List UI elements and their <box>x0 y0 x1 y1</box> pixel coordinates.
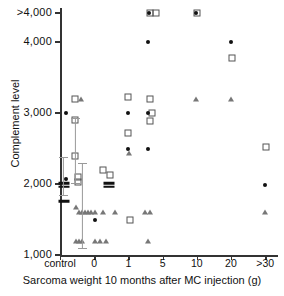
error-bar-cap-top <box>59 157 68 158</box>
scatter-chart-figure: >4,0004,0003,0002,0001,000 control015102… <box>0 0 284 296</box>
error-bar-cap-bottom <box>59 195 68 196</box>
data-point-square <box>262 144 269 151</box>
data-point-square <box>153 10 160 17</box>
data-point-triangle <box>145 238 151 243</box>
data-point-bar <box>103 182 114 185</box>
error-bar-stem <box>63 157 64 196</box>
data-point-circle <box>64 111 68 115</box>
data-point-circle <box>146 147 150 151</box>
x-tick-label: 20 <box>225 258 237 269</box>
data-point-triangle <box>112 210 118 215</box>
x-tick-label: 10 <box>191 258 203 269</box>
y-axis-title: Complement level <box>10 69 21 179</box>
y-tick-label: 3,000 <box>23 107 52 118</box>
y-tick-mark <box>55 112 61 113</box>
x-tick-label: 1 <box>125 258 131 269</box>
y-axis-line <box>60 8 62 256</box>
x-tick-label: 0 <box>91 258 97 269</box>
x-tick-label: >30 <box>256 258 274 269</box>
x-tick-label: control <box>44 258 76 269</box>
data-point-circle <box>229 40 233 44</box>
data-point-triangle <box>193 96 199 101</box>
data-point-square <box>146 117 153 124</box>
error-bar-cap-top <box>71 118 80 119</box>
y-tick-mark <box>55 12 61 13</box>
data-point-triangle <box>100 210 106 215</box>
data-point-square <box>106 172 113 179</box>
error-bar <box>78 163 87 250</box>
error-bar <box>59 157 68 196</box>
x-tick-label: 5 <box>160 258 166 269</box>
x-axis-title: Sarcoma weight 10 months after MC inject… <box>0 275 284 286</box>
error-bar-stem <box>82 163 83 250</box>
data-point-triangle <box>126 151 132 156</box>
data-point-square <box>124 129 131 136</box>
data-point-circle <box>146 40 150 44</box>
error-bar-cap-top <box>78 163 87 164</box>
y-tick-label: >4,000 <box>17 7 52 18</box>
data-point-triangle <box>78 96 84 101</box>
data-point-triangle <box>92 210 98 215</box>
data-point-square <box>127 217 134 224</box>
data-point-circle <box>194 11 198 15</box>
data-point-triangle <box>103 238 109 243</box>
y-tick-label: 4,000 <box>23 36 52 47</box>
data-point-square <box>228 54 235 61</box>
data-point-circle <box>126 147 130 151</box>
data-point-bar <box>103 186 114 189</box>
data-point-circle <box>263 183 267 187</box>
error-bar-cap-bottom <box>78 248 87 249</box>
error-bar-stem <box>75 118 76 184</box>
data-point-bar <box>59 200 70 203</box>
y-tick-label: 2,000 <box>23 178 52 189</box>
data-point-square <box>124 94 131 101</box>
data-point-square <box>146 95 153 102</box>
data-point-circle <box>147 11 151 15</box>
data-point-circle <box>146 111 150 115</box>
data-point-triangle <box>228 96 234 101</box>
y-tick-mark <box>55 41 61 42</box>
data-point-circle <box>126 111 130 115</box>
data-point-triangle <box>147 210 153 215</box>
data-point-circle <box>93 218 97 222</box>
data-point-triangle <box>262 210 268 215</box>
